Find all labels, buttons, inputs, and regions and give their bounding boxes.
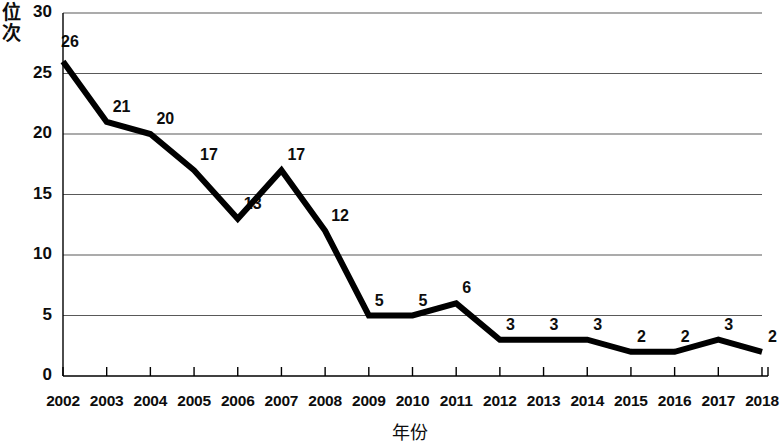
x-axis-ticks <box>63 367 768 376</box>
gridlines <box>63 13 762 316</box>
data-series-line <box>63 61 762 351</box>
